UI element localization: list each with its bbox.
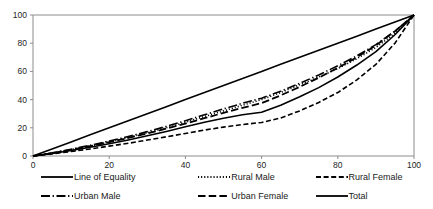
- series-line-line-of-equality: [33, 15, 414, 156]
- y-axis-tick-label: 40: [5, 96, 27, 105]
- legend-label: Total: [349, 192, 368, 201]
- y-axis-tick-label: 60: [5, 67, 27, 76]
- chart-legend: Line of EqualityRural MaleRural FemaleUr…: [33, 168, 414, 206]
- legend-label: Rural Female: [349, 173, 403, 182]
- legend-item-urban-male[interactable]: Urban Male: [33, 187, 197, 205]
- legend-label: Rural Male: [231, 173, 275, 182]
- y-axis-tick-label: 100: [5, 11, 27, 20]
- legend-item-rural-female[interactable]: Rural Female: [315, 168, 414, 186]
- lorenz-curve-chart: 020406080100020406080100 Line of Equalit…: [0, 0, 433, 209]
- legend-label: Urban Female: [231, 192, 288, 201]
- legend-swatch-dashdot-icon: [40, 191, 74, 201]
- legend-label: Line of Equality: [74, 173, 136, 182]
- legend-label: Urban Male: [74, 192, 121, 201]
- legend-item-total[interactable]: Total: [315, 187, 414, 205]
- legend-swatch-dotted-icon: [197, 172, 231, 182]
- y-axis-tick-label: 80: [5, 39, 27, 48]
- y-axis-tick-label: 20: [5, 124, 27, 133]
- legend-item-line-of-equality[interactable]: Line of Equality: [33, 168, 197, 186]
- legend-swatch-solid-icon: [315, 191, 349, 201]
- y-axis-tick-label: 0: [5, 152, 27, 161]
- legend-swatch-longdash-icon: [197, 191, 231, 201]
- legend-item-urban-female[interactable]: Urban Female: [197, 187, 314, 205]
- series-lines: [33, 15, 414, 156]
- legend-row: Line of EqualityRural MaleRural Female: [33, 168, 414, 186]
- legend-row: Urban MaleUrban FemaleTotal: [33, 187, 414, 205]
- legend-item-rural-male[interactable]: Rural Male: [197, 168, 314, 186]
- legend-swatch-dashed-icon: [315, 172, 349, 182]
- legend-swatch-solid-icon: [40, 172, 74, 182]
